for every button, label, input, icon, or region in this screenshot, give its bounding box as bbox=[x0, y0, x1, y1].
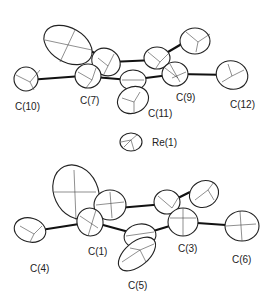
label-c1: C(1) bbox=[88, 246, 107, 257]
label-c7: C(7) bbox=[80, 95, 99, 106]
label-c9: C(9) bbox=[176, 92, 195, 103]
label-re1: Re(1) bbox=[152, 137, 177, 148]
ortep-diagram bbox=[0, 0, 270, 298]
label-c4: C(4) bbox=[30, 263, 49, 274]
atom-c7 bbox=[75, 64, 101, 88]
atom-c4 bbox=[11, 214, 48, 245]
atom-bottom-ring-methyl-back bbox=[185, 175, 224, 213]
atom-c10 bbox=[14, 67, 40, 91]
label-c3: C(3) bbox=[178, 243, 197, 254]
label-c6: C(6) bbox=[232, 254, 251, 265]
label-c12: C(12) bbox=[230, 99, 255, 110]
label-c10: C(10) bbox=[15, 101, 40, 112]
atom-re1 bbox=[120, 133, 142, 151]
atom-c9 bbox=[162, 62, 188, 86]
atom-top-ring-methyl-back bbox=[180, 28, 210, 54]
label-c11: C(11) bbox=[148, 108, 172, 119]
atom-c12 bbox=[212, 56, 252, 93]
atom-c11 bbox=[113, 81, 153, 118]
label-c5: C(5) bbox=[128, 280, 147, 291]
atom-c6 bbox=[225, 211, 259, 241]
atom-c3 bbox=[168, 208, 198, 236]
